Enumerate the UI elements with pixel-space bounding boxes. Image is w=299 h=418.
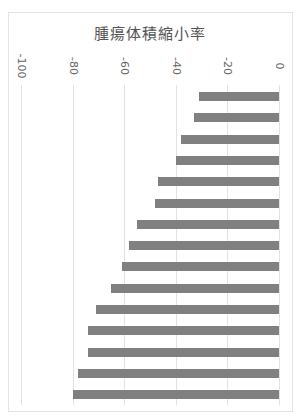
chart-title: 腫瘍体積縮小率 bbox=[0, 22, 299, 43]
gridline bbox=[279, 85, 280, 405]
bar bbox=[111, 284, 279, 293]
bar bbox=[73, 390, 279, 399]
bar bbox=[88, 348, 279, 357]
x-tick-label: -20 bbox=[221, 57, 234, 75]
bar bbox=[129, 241, 279, 250]
bar bbox=[122, 262, 279, 271]
x-tick-label: -80 bbox=[66, 57, 79, 75]
bar bbox=[199, 92, 279, 101]
bar bbox=[176, 156, 279, 165]
bar bbox=[181, 135, 279, 144]
bar bbox=[78, 369, 279, 378]
x-tick-label: -40 bbox=[169, 57, 182, 75]
gridline bbox=[21, 85, 22, 405]
x-tick-label: -100 bbox=[15, 54, 28, 79]
bar bbox=[88, 326, 279, 335]
gridline bbox=[73, 85, 74, 405]
x-tick-label: 0 bbox=[273, 63, 286, 70]
gridline bbox=[124, 85, 125, 405]
bar bbox=[137, 220, 279, 229]
bar bbox=[158, 177, 279, 186]
bar bbox=[155, 199, 279, 208]
bar bbox=[194, 113, 279, 122]
x-tick-label: -60 bbox=[118, 57, 131, 75]
bar bbox=[96, 305, 279, 314]
